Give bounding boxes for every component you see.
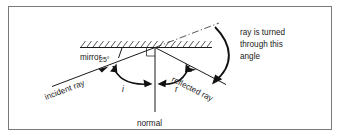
- angle-25-label: 25°: [99, 56, 110, 63]
- turning-angle-arc: [212, 27, 229, 85]
- mirror-surface: [80, 41, 212, 48]
- turned-angle-label-line3: angle: [240, 52, 260, 61]
- ray-diagram: mirror 25° incident ray reflected ray no…: [0, 0, 342, 139]
- turned-angle-label-line1: ray is turned: [240, 28, 285, 37]
- angle-of-incidence-arc: [110, 64, 153, 88]
- figure-root: mirror 25° incident ray reflected ray no…: [0, 0, 342, 139]
- angle-25-tick: [119, 48, 123, 58]
- angle-i-label: i: [122, 84, 125, 94]
- incident-ray: [52, 48, 155, 87]
- normal-label: normal: [137, 119, 162, 128]
- turned-angle-label-line2: through this: [240, 40, 283, 49]
- mirror-hatching: [81, 41, 212, 47]
